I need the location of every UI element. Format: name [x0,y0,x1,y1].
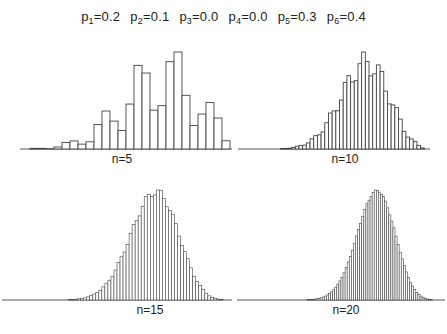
histogram-bar [156,190,159,300]
histogram-bar [292,147,296,149]
histogram-bar [184,252,187,300]
histogram-bar [358,64,362,149]
histogram-bar [110,121,118,149]
histogram-bar [174,52,182,149]
histogram-bar [193,276,196,300]
histogram-bar [325,123,329,149]
histogram-bar [333,290,335,300]
histogram-bar [345,267,347,300]
histogram-bar [389,215,391,300]
histogram-bar [331,292,333,300]
histogram-bar [303,145,307,149]
histogram-bar [206,102,214,149]
histogram-bar [129,234,132,300]
histogram-bar [362,217,364,300]
histogram-bar [405,272,407,300]
histogram-bar [326,295,328,300]
histogram-bar [364,209,366,300]
histogram-bar [372,193,374,300]
histogram-bar [108,280,111,300]
panel-label-n20: n=20 [332,303,359,317]
histogram-bar [347,262,349,300]
histogram-bar [328,293,330,300]
histogram-bar [373,74,377,149]
histogram-bar [343,82,347,149]
histogram-bar [111,276,114,300]
histogram-bar [144,197,147,300]
histogram-bar [314,136,318,149]
histogram-bar [134,65,142,149]
histogram-bar [78,299,81,300]
histogram-bar [30,148,38,149]
histogram-bar [182,95,190,149]
histogram-bar [383,197,385,300]
histogram-bar [126,244,129,300]
histogram-bar [171,214,174,300]
histogram-bar [393,228,395,300]
histogram-n20 [237,190,445,300]
histogram-bar [94,125,102,149]
histogram-bar [353,243,355,300]
histogram-bar [196,282,199,300]
histogram-bar [391,221,393,300]
histogram-bar [114,270,117,300]
histogram-bar [175,224,178,300]
histogram-bar [90,295,93,300]
histogram-bar [118,131,126,149]
histogram-bar [187,259,190,300]
histogram-bar [190,268,193,300]
histogram-bar [384,91,388,149]
histogram-bar [199,286,202,300]
histogram-bar [214,118,222,149]
histogram-bar [105,283,108,300]
histogram-bar [349,257,351,300]
histogram-bar [368,200,370,300]
histogram-bar [337,284,339,300]
histogram-bar [347,76,351,149]
histogram-bar [321,132,325,149]
histogram-bar [412,286,414,300]
histogram-bar [414,289,416,300]
histogram-bar [208,296,211,300]
histogram-bar [395,108,399,149]
histogram-bar [370,197,372,300]
histogram-bar [378,193,380,300]
histogram-bar [366,204,368,300]
histogram-bar [317,135,321,149]
histogram-bar [362,52,366,149]
histogram-bar [222,141,230,149]
histogram-bar [422,297,424,300]
histogram-bar [376,65,380,149]
histogram-bar [426,299,428,300]
histogram-bar [354,81,358,149]
histogram-bar [395,236,397,300]
histogram-bar [86,142,94,149]
histogram-bar [312,299,314,300]
histogram-bar [147,194,150,300]
histogram-bar [351,251,353,300]
histogram-bar [306,143,310,149]
histogram-bar [99,290,102,300]
histogram-bar [142,73,150,149]
histogram-bar [178,236,181,300]
histogram-bar [358,230,360,300]
histogram-bar [211,297,214,300]
histogram-bar [81,298,84,300]
histogram-bar [380,194,382,300]
histogram-bar [198,114,206,149]
histogram-bar [102,287,105,300]
histogram-bar [410,139,414,149]
histogram-n5 [20,52,232,149]
histogram-bar [102,111,110,149]
histogram-bar [132,225,135,300]
histogram-bar [78,144,86,149]
histogram-bar [75,299,78,300]
histogram-bar [402,131,406,149]
histogram-bar [406,137,410,149]
histogram-bar [54,147,62,149]
histogram-bar [168,211,171,301]
histogram-bar [70,141,78,149]
histogram-bar [401,259,403,300]
histogram-bar [428,299,430,300]
histogram-bar [374,190,376,300]
